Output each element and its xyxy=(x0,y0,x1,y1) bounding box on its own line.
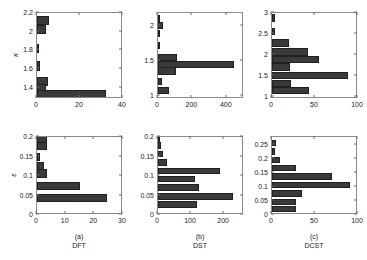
x-tick-mark xyxy=(191,12,192,15)
ylabel-epsilon: ε xyxy=(10,167,18,183)
bars-b-bottom xyxy=(158,137,242,213)
y-tick-mark xyxy=(157,59,160,60)
bar xyxy=(272,165,296,172)
bar xyxy=(158,142,161,149)
y-tick-label: 0.2 xyxy=(258,155,268,162)
y-tick-label: 1.8 xyxy=(23,46,33,53)
y-tick-mark xyxy=(271,200,274,201)
ylabel-kappa: κ xyxy=(12,47,20,63)
plot-area-b-top xyxy=(157,12,243,98)
x-tick-mark xyxy=(314,95,315,98)
bar xyxy=(272,182,350,189)
y-tick-mark xyxy=(119,175,122,176)
bar xyxy=(37,61,40,70)
x-tick-mark xyxy=(79,95,80,98)
x-tick-mark xyxy=(36,12,37,15)
x-tick-mark xyxy=(271,136,272,139)
x-tick-mark xyxy=(36,136,37,139)
panel-a-top: 1.41.61.822.202040 xyxy=(36,12,122,98)
x-tick-label: 100 xyxy=(184,217,196,224)
x-tick-label: 200 xyxy=(186,101,198,108)
y-tick-mark xyxy=(354,53,357,54)
y-tick-mark xyxy=(354,144,357,145)
y-tick-label: 0.1 xyxy=(23,172,33,179)
x-tick-label: 30 xyxy=(118,217,126,224)
y-tick-label: 0.05 xyxy=(140,191,154,198)
caption-b-name: DST xyxy=(157,241,243,250)
y-tick-mark xyxy=(354,186,357,187)
y-tick-label: 0.15 xyxy=(140,152,154,159)
y-tick-label: 0.05 xyxy=(254,197,268,204)
bar xyxy=(158,184,199,191)
x-tick-label: 10 xyxy=(61,217,69,224)
bars-c-top xyxy=(272,13,356,97)
bars-b-top xyxy=(158,13,242,97)
bar xyxy=(272,80,291,87)
x-tick-mark xyxy=(357,12,358,15)
caption-a-name: DFT xyxy=(36,241,122,250)
x-tick-mark xyxy=(157,12,158,15)
y-tick-mark xyxy=(119,49,122,50)
y-tick-label: 0.2 xyxy=(144,133,154,140)
y-tick-mark xyxy=(354,172,357,173)
bar xyxy=(37,194,107,202)
plot-area-b-bottom xyxy=(157,136,243,214)
y-tick-label: 0 xyxy=(29,211,33,218)
caption-a: (a) DFT xyxy=(36,232,122,250)
x-tick-label: 100 xyxy=(351,217,363,224)
y-tick-mark xyxy=(36,68,39,69)
y-tick-mark xyxy=(240,155,243,156)
x-tick-mark xyxy=(93,211,94,214)
x-tick-label: 0 xyxy=(155,217,159,224)
bars-a-top xyxy=(37,13,121,97)
bar xyxy=(272,56,319,63)
x-tick-mark xyxy=(223,211,224,214)
panel-c-bottom: 00.050.10.150.20.25050100 xyxy=(271,136,357,214)
bar xyxy=(272,28,275,35)
caption-c: (c) DCST xyxy=(271,232,357,250)
x-tick-mark xyxy=(122,211,123,214)
y-tick-mark xyxy=(157,24,160,25)
y-tick-label: 1.6 xyxy=(23,65,33,72)
bar xyxy=(272,87,309,94)
y-tick-mark xyxy=(271,158,274,159)
x-tick-label: 20 xyxy=(89,217,97,224)
x-tick-mark xyxy=(122,95,123,98)
x-tick-mark xyxy=(36,211,37,214)
bar xyxy=(272,173,332,180)
x-tick-mark xyxy=(191,95,192,98)
plot-area-c-top xyxy=(271,12,357,98)
y-tick-label: 3 xyxy=(264,9,268,16)
plot-area-a-top xyxy=(36,12,122,98)
x-tick-mark xyxy=(122,136,123,139)
y-tick-mark xyxy=(157,175,160,176)
bar xyxy=(158,159,167,166)
x-tick-mark xyxy=(64,211,65,214)
y-tick-label: 2 xyxy=(264,50,268,57)
x-tick-label: 100 xyxy=(351,101,363,108)
caption-c-name: DCST xyxy=(271,241,357,250)
y-tick-mark xyxy=(157,194,160,195)
x-tick-mark xyxy=(223,136,224,139)
caption-a-index: (a) xyxy=(36,232,122,241)
y-tick-mark xyxy=(271,32,274,33)
bars-a-bottom xyxy=(37,137,121,213)
y-tick-label: 0.1 xyxy=(258,183,268,190)
x-tick-mark xyxy=(190,211,191,214)
y-tick-mark xyxy=(36,30,39,31)
y-tick-mark xyxy=(354,74,357,75)
y-tick-mark xyxy=(119,155,122,156)
y-tick-mark xyxy=(36,49,39,50)
y-tick-mark xyxy=(119,68,122,69)
y-tick-mark xyxy=(354,200,357,201)
bar xyxy=(272,206,296,213)
y-tick-mark xyxy=(36,175,39,176)
bar xyxy=(37,169,47,177)
x-tick-label: 50 xyxy=(310,217,318,224)
y-tick-mark xyxy=(354,32,357,33)
y-tick-label: 0 xyxy=(264,211,268,218)
plot-area-c-bottom xyxy=(271,136,357,214)
y-tick-label: 1.5 xyxy=(258,71,268,78)
bar xyxy=(158,22,163,29)
y-tick-label: 0.15 xyxy=(254,169,268,176)
